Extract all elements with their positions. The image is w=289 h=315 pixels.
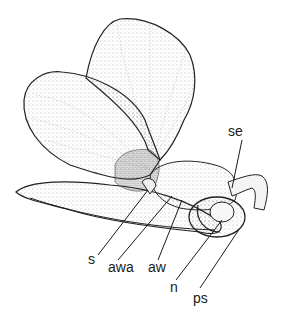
- label-ps: ps: [193, 291, 208, 305]
- label-s: s: [88, 252, 95, 266]
- label-aw: aw: [148, 260, 166, 274]
- flower-illustration: [0, 0, 289, 315]
- label-awa: awa: [108, 260, 134, 274]
- label-se: se: [228, 124, 243, 138]
- label-n: n: [170, 280, 178, 294]
